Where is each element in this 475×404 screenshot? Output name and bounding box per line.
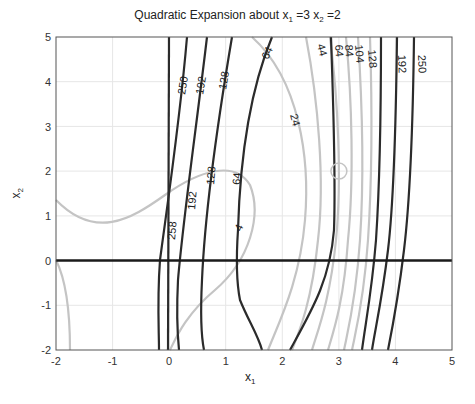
contour-plot: 250 192 128 64 24 44 64 84 104 128 192 2… [0, 0, 475, 404]
svg-text:-1: -1 [41, 299, 51, 311]
svg-text:1: 1 [223, 355, 229, 367]
svg-text:250: 250 [175, 75, 190, 95]
svg-text:258: 258 [165, 221, 179, 240]
svg-text:-1: -1 [108, 355, 118, 367]
expansion-contours [56, 37, 371, 350]
svg-text:4: 4 [392, 355, 398, 367]
y-tick-labels: 543 210 -1-2 [41, 31, 51, 356]
svg-text:128: 128 [204, 166, 218, 185]
y-axis-label: x2 [9, 188, 25, 198]
contour-labels: 250 192 128 64 24 44 64 84 104 128 192 2… [165, 42, 429, 240]
svg-text:128: 128 [216, 70, 231, 90]
svg-text:-2: -2 [51, 355, 61, 367]
svg-text:192: 192 [193, 75, 208, 95]
svg-text:0: 0 [45, 255, 51, 267]
svg-text:2: 2 [279, 355, 285, 367]
svg-text:192: 192 [396, 55, 409, 74]
x-tick-labels: -2-10 123 45 [51, 355, 455, 367]
svg-text:104: 104 [353, 44, 367, 63]
svg-text:128: 128 [366, 49, 380, 68]
svg-text:64: 64 [230, 172, 243, 185]
svg-text:0: 0 [166, 355, 172, 367]
svg-text:4: 4 [45, 76, 51, 88]
svg-text:5: 5 [45, 31, 51, 43]
svg-text:2: 2 [45, 165, 51, 177]
svg-text:5: 5 [449, 355, 455, 367]
x-axis-label: x1 [245, 370, 255, 386]
svg-text:44: 44 [315, 42, 330, 57]
svg-text:3: 3 [45, 121, 51, 133]
svg-text:3: 3 [336, 355, 342, 367]
svg-text:250: 250 [416, 55, 429, 74]
svg-text:1: 1 [45, 210, 51, 222]
svg-text:-2: -2 [41, 344, 51, 356]
svg-text:192: 192 [185, 191, 199, 210]
svg-text:24: 24 [288, 112, 303, 127]
